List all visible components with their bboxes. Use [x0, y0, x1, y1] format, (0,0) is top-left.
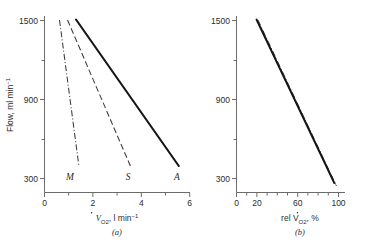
panel-b-ylabel-300: 300 — [216, 174, 230, 184]
panel-a-xlabel-6: 6 — [187, 198, 192, 208]
panel-b-x-axis-title: rel VO2, % — [281, 213, 319, 225]
panel-a-curve-label-A: A — [173, 172, 180, 182]
panel-a-xlabel-4: 4 — [139, 198, 144, 208]
panel-b-vdot-icon — [297, 212, 299, 214]
panel-a-ylabel-1500: 1500 — [19, 16, 38, 26]
panel-a-curve-label-M: M — [65, 172, 75, 182]
panel-a-y-axis-title-main: Flow, ml min — [5, 85, 15, 133]
panel-a-curve-label-S: S — [126, 172, 131, 182]
panel-b-xlabel-60: 60 — [293, 198, 303, 208]
panel-b-ylabel-1500: 1500 — [211, 16, 230, 26]
panel-a-ylabel-900: 900 — [24, 95, 38, 105]
panel-a-vdot-icon — [91, 212, 93, 214]
panel-b-label: (b) — [295, 227, 305, 237]
panel-a-y-axis-title-sup: −1 — [5, 77, 11, 85]
panel-a-x-axis-title-rest: , l min — [109, 213, 132, 223]
panel-a: 1500 900 300 0 2 4 6 M S A VO2, l min−1 … — [5, 16, 193, 238]
panel-a-y-axis-title: Flow, ml min−1 — [5, 77, 16, 132]
panel-b-curve-A — [257, 20, 335, 184]
panel-b: 1500 900 300 0 20 60 100 rel VO2, % (b) — [211, 16, 346, 238]
panel-b-x-axis-title-rest: , % — [307, 213, 320, 223]
figure-panel-group: 1500 900 300 0 2 4 6 M S A VO2, l min−1 … — [0, 0, 377, 247]
panel-a-xlabel-2: 2 — [91, 198, 96, 208]
panel-b-ylabel-900: 900 — [216, 95, 230, 105]
panel-b-xlabel-100: 100 — [331, 198, 345, 208]
panel-b-xlabel-0: 0 — [234, 198, 239, 208]
panel-a-curve-M — [60, 20, 79, 166]
panel-a-curve-S — [68, 20, 131, 166]
panel-a-xlabel-0: 0 — [42, 198, 47, 208]
panel-a-ylabel-300: 300 — [24, 174, 38, 184]
panel-b-xlabel-20: 20 — [252, 198, 262, 208]
panel-a-x-axis-title-sup: −1 — [132, 213, 140, 219]
panel-a-x-axis-title: VO2, l min−1 — [96, 213, 139, 225]
panel-a-label: (a) — [112, 227, 122, 237]
panel-a-curve-A — [76, 20, 179, 167]
panel-b-x-axis-title-main: rel V — [281, 213, 299, 223]
